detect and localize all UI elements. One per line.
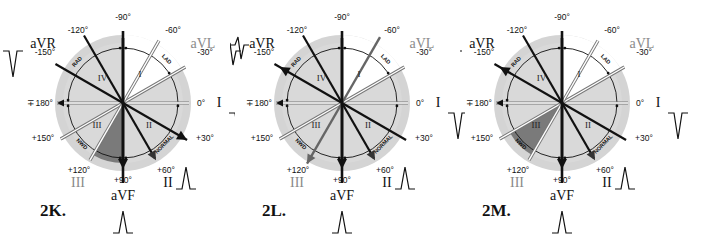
arc-arrow-tip bbox=[558, 47, 561, 50]
arc-arrow-tip bbox=[563, 47, 566, 50]
degree-label-p120: +120° bbox=[68, 165, 91, 175]
arc-arrow-tip bbox=[124, 157, 127, 160]
waveform-II bbox=[615, 167, 635, 189]
degree-label-p180: ∓180° bbox=[466, 98, 492, 108]
degree-label-z0: 0° bbox=[416, 98, 424, 108]
degree-label-m60: -60° bbox=[165, 25, 181, 35]
waveform-II bbox=[176, 167, 196, 189]
panel-2l: IVIIIIIILADRADNORMALNWD-90°-120°-60°-150… bbox=[230, 0, 465, 252]
degree-label-p60: +60° bbox=[376, 165, 394, 175]
waveform-aVR bbox=[230, 37, 249, 59]
degree-label-p150: +150° bbox=[32, 133, 55, 143]
arc-arrow-tip bbox=[168, 72, 171, 75]
sector-label-i: I bbox=[139, 69, 142, 79]
lead-label-i: I bbox=[217, 95, 222, 110]
panel-2m: IVIIIIIILADRADNORMALNWD-90°-120°-60°-150… bbox=[460, 0, 695, 252]
lead-label-avf: aVF bbox=[111, 188, 135, 203]
lead-label-ii: II bbox=[602, 175, 612, 190]
lead-label-i: I bbox=[656, 95, 661, 110]
waveform-I bbox=[668, 113, 688, 139]
degree-label-p60: +60° bbox=[157, 165, 175, 175]
panel-2k: IVIIIIIILADRADNORMALNWD-90°-120°-60°-150… bbox=[0, 0, 235, 252]
arc-arrow-tip bbox=[396, 104, 399, 107]
lead-label-ii: II bbox=[382, 175, 392, 190]
arc-arrow-tip bbox=[558, 157, 561, 160]
arc-arrow-tip bbox=[387, 72, 390, 75]
sector-label-ii: II bbox=[365, 120, 371, 130]
sector-label-iii: III bbox=[92, 120, 101, 130]
lead-label-avf: aVF bbox=[550, 188, 574, 203]
degree-label-p60: +60° bbox=[596, 165, 614, 175]
arc-arrow-tip bbox=[506, 104, 509, 107]
degree-label-m120: -120° bbox=[68, 25, 88, 35]
degree-label-m90: -90° bbox=[115, 12, 131, 22]
degree-label-m90: -90° bbox=[334, 12, 350, 22]
degree-label-p180: ∓180° bbox=[27, 98, 53, 108]
lead-label-avf: aVF bbox=[330, 188, 354, 203]
degree-label-p30: +30° bbox=[635, 133, 653, 143]
sector-label-iv: IV bbox=[317, 73, 327, 83]
degree-label-z0: 0° bbox=[636, 98, 644, 108]
waveform-aVF bbox=[113, 211, 133, 233]
arc-arrow-tip bbox=[343, 157, 346, 160]
degree-label-p120: +120° bbox=[287, 165, 310, 175]
degree-label-z0: 0° bbox=[197, 98, 205, 108]
lead-label-iii: III bbox=[510, 175, 524, 190]
lead-label-avl: aVL bbox=[630, 36, 655, 51]
arc-arrow-tip bbox=[338, 157, 341, 160]
sector-label-iii: III bbox=[311, 120, 320, 130]
sector-label-i: I bbox=[358, 69, 361, 79]
degree-label-p150: +150° bbox=[251, 133, 274, 143]
degree-label-p90: +90° bbox=[114, 175, 132, 185]
waveform-aVF bbox=[332, 211, 352, 233]
degree-label-p30: +30° bbox=[196, 133, 214, 143]
arc-arrow-tip bbox=[343, 47, 346, 50]
arc-arrow-tip bbox=[616, 104, 619, 107]
degree-label-p90: +90° bbox=[553, 175, 571, 185]
arc-arrow-tip bbox=[607, 72, 610, 75]
lead-label-iii: III bbox=[71, 175, 85, 190]
lead-label-avr: aVR bbox=[469, 36, 495, 51]
figure-label-2k: 2K. bbox=[40, 201, 66, 221]
sector-label-iv: IV bbox=[98, 73, 108, 83]
arc-arrow-tip bbox=[177, 104, 180, 107]
sector-label-ii: II bbox=[146, 120, 152, 130]
arc-arrow-tip bbox=[119, 157, 122, 160]
arc-arrow-tip bbox=[67, 104, 70, 107]
sector-label-iv: IV bbox=[537, 73, 547, 83]
waveform-aVR bbox=[460, 29, 462, 51]
arc-arrow-tip bbox=[119, 47, 122, 50]
lead-label-ii: II bbox=[163, 175, 173, 190]
degree-label-m120: -120° bbox=[507, 25, 527, 35]
arc-arrow-tip bbox=[286, 104, 289, 107]
figure-label-2m: 2M. bbox=[482, 201, 511, 221]
arc-arrow-tip bbox=[67, 99, 70, 102]
waveform-II bbox=[395, 167, 415, 189]
sector-label-i: I bbox=[578, 69, 581, 79]
lead-label-avr: aVR bbox=[30, 36, 56, 51]
arc-arrow-tip bbox=[124, 47, 127, 50]
lead-label-i: I bbox=[436, 95, 441, 110]
sector-label-iii: III bbox=[531, 120, 540, 130]
degree-label-p150: +150° bbox=[471, 133, 494, 143]
degree-label-m60: -60° bbox=[384, 25, 400, 35]
degree-label-p30: +30° bbox=[415, 133, 433, 143]
waveform-aVR bbox=[3, 51, 23, 77]
sector-label-ii: II bbox=[585, 120, 591, 130]
hexaxial-diagram-2k: IVIIIIIILADRADNORMALNWD-90°-120°-60°-150… bbox=[0, 0, 235, 252]
degree-label-m90: -90° bbox=[554, 12, 570, 22]
degree-label-p180: ∓180° bbox=[246, 98, 272, 108]
waveform-aVF bbox=[552, 211, 572, 233]
degree-label-p120: +120° bbox=[507, 165, 530, 175]
degree-label-m120: -120° bbox=[287, 25, 307, 35]
arc-arrow-tip bbox=[338, 47, 341, 50]
arc-arrow-tip bbox=[286, 99, 289, 102]
degree-label-p90: +90° bbox=[333, 175, 351, 185]
lead-label-avl: aVL bbox=[410, 36, 435, 51]
figure-label-2l: 2L. bbox=[262, 201, 286, 221]
lead-label-iii: III bbox=[290, 175, 304, 190]
arc-arrow-tip bbox=[506, 99, 509, 102]
lead-label-avr: aVR bbox=[249, 36, 275, 51]
degree-label-m60: -60° bbox=[604, 25, 620, 35]
lead-label-avl: aVL bbox=[191, 36, 216, 51]
